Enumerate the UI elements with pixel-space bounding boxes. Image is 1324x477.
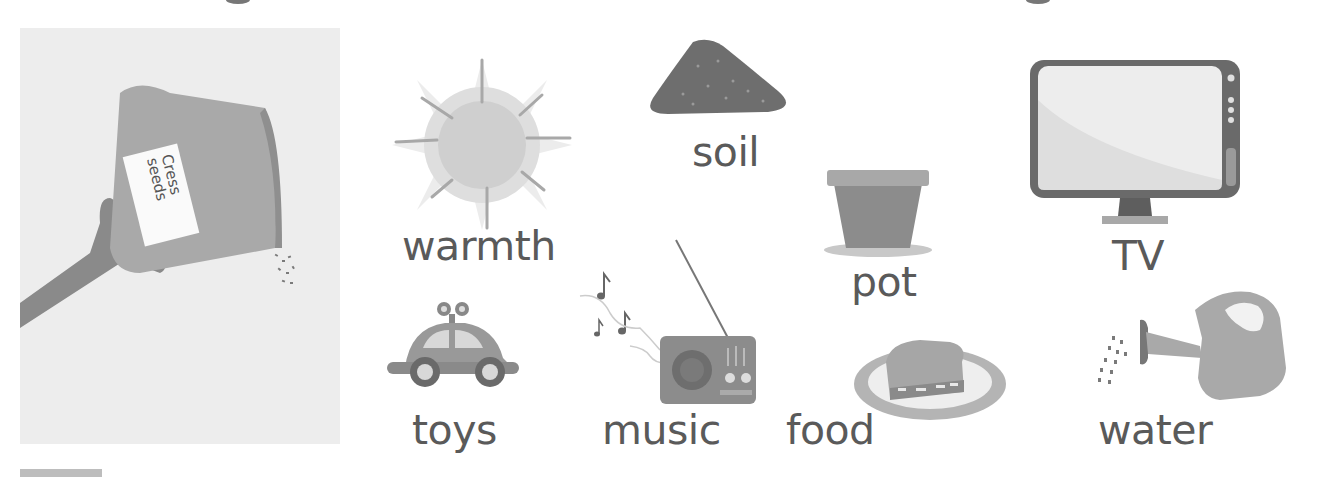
decorative-bar xyxy=(20,469,102,477)
item-label-food: food xyxy=(786,410,875,451)
item-label-water: water xyxy=(1098,410,1212,451)
watering-can-icon xyxy=(1090,288,1310,408)
radio-icon xyxy=(570,238,770,408)
item-label-soil: soil xyxy=(692,132,759,173)
top-cutoff-blob-icon-2 xyxy=(1026,0,1066,10)
television-icon xyxy=(1030,60,1246,228)
top-cutoff-blob-icon xyxy=(226,0,266,10)
item-label-tv: TV xyxy=(1112,236,1164,277)
item-label-warmth: warmth xyxy=(402,226,556,267)
soil-pile-icon xyxy=(648,36,798,111)
toy-car-icon xyxy=(385,298,520,393)
seed-packet-panel: Cress seeds xyxy=(20,28,340,444)
item-label-pot: pot xyxy=(851,262,917,303)
sun-icon xyxy=(392,60,572,230)
item-label-toys: toys xyxy=(412,410,497,451)
item-label-music: music xyxy=(602,410,721,451)
flower-pot-icon xyxy=(824,168,934,258)
